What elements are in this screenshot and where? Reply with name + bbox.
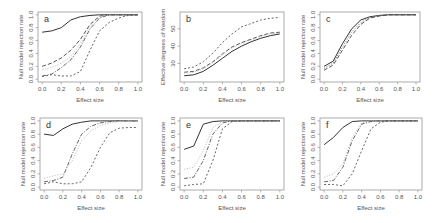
- plot-frame: [320, 12, 420, 82]
- series-long-dash: [42, 15, 138, 67]
- series-dotted: [324, 15, 416, 68]
- plot-frame: [320, 118, 422, 190]
- x-tick-label: 0.2: [59, 194, 68, 200]
- series-short-dash: [42, 15, 138, 77]
- panel-label: d: [46, 120, 51, 130]
- series-light: [184, 33, 280, 73]
- x-tick-label: 1.0: [134, 86, 143, 92]
- x-tick-label: 0.6: [375, 86, 384, 92]
- x-axis-title: Effect size: [76, 97, 104, 103]
- y-tick-label: 0.4: [170, 156, 176, 165]
- series-long-dash: [184, 32, 280, 72]
- y-axis-title: Null model rejection rate: [300, 121, 306, 186]
- series-dashed: [324, 15, 416, 70]
- y-tick-label: 0.8: [310, 23, 316, 32]
- x-tick-label: 0.4: [218, 86, 227, 92]
- y-tick-label: 0.4: [310, 156, 316, 165]
- series-short-dash: [44, 128, 138, 184]
- x-tick-label: 0.2: [339, 194, 348, 200]
- y-tick-label: 0.0: [310, 74, 316, 83]
- y-tick-label: 0.6: [170, 143, 176, 152]
- panel-d: 0.00.20.40.60.81.00.00.20.40.60.81.0Effe…: [20, 116, 143, 211]
- x-axis-title: Effect size: [218, 205, 246, 211]
- series-dash-dot: [44, 121, 138, 182]
- x-tick-label: 0.6: [376, 194, 385, 200]
- series-short-dash: [324, 121, 418, 186]
- x-tick-label: 0.2: [199, 86, 208, 92]
- x-tick-label: 0.8: [395, 194, 404, 200]
- x-tick-label: 0.4: [218, 194, 227, 200]
- x-tick-label: 0.4: [76, 86, 85, 92]
- y-tick-label: 0.2: [310, 61, 316, 70]
- x-axis-title: Effect size: [77, 205, 105, 211]
- series-light: [42, 15, 138, 70]
- y-tick-label: 0.8: [170, 129, 176, 138]
- y-tick-label: 50: [170, 25, 176, 32]
- y-tick-label: 0.4: [30, 156, 36, 165]
- panel-c: 0.00.20.40.60.81.00.00.20.40.60.81.0Effe…: [300, 10, 421, 103]
- series-dash-dot: [42, 15, 138, 76]
- plot-frame: [180, 118, 284, 190]
- y-tick-label: 0.6: [28, 36, 34, 45]
- x-tick-label: 1.0: [276, 194, 285, 200]
- y-tick-label: 0.2: [310, 169, 316, 178]
- plot-frame: [40, 118, 142, 190]
- series-solid: [324, 15, 416, 67]
- x-tick-label: 0.0: [38, 86, 47, 92]
- x-tick-label: 1.0: [276, 86, 285, 92]
- y-tick-label: 0.4: [28, 49, 34, 58]
- y-tick-label: 0.6: [310, 143, 316, 152]
- panel-a: 0.00.20.40.60.81.00.00.20.40.60.81.0Effe…: [18, 10, 143, 103]
- x-tick-label: 0.0: [320, 86, 329, 92]
- x-tick-label: 0.8: [257, 86, 266, 92]
- y-tick-label: 0.0: [170, 182, 176, 191]
- x-tick-label: 0.2: [199, 194, 208, 200]
- x-tick-label: 0.0: [180, 86, 189, 92]
- x-tick-label: 0.2: [338, 86, 347, 92]
- y-tick-label: 40: [170, 42, 176, 49]
- panel-label: f: [326, 120, 329, 130]
- x-tick-label: 0.0: [320, 194, 329, 200]
- panel-e: 0.00.20.40.60.81.00.00.20.40.60.81.0Effe…: [160, 116, 285, 211]
- x-tick-label: 0.6: [237, 86, 246, 92]
- plot-frame: [38, 12, 142, 82]
- y-axis-title: Null model rejection rate: [160, 121, 166, 186]
- y-tick-label: 1.0: [28, 10, 34, 19]
- y-tick-label: 0.6: [310, 36, 316, 45]
- figure-grid: 0.00.20.40.60.81.00.00.20.40.60.81.0Effe…: [0, 0, 437, 223]
- series-light: [184, 121, 280, 169]
- series-solid: [324, 121, 418, 145]
- y-tick-label: 0.4: [310, 49, 316, 58]
- y-tick-label: 1.0: [310, 116, 316, 125]
- y-tick-label: 1.0: [310, 10, 316, 19]
- series-light: [324, 121, 418, 177]
- x-axis-title: Effect size: [357, 205, 385, 211]
- y-axis-title: Null model rejection rate: [300, 14, 306, 79]
- y-tick-label: 0.0: [30, 182, 36, 191]
- panel-f: 0.00.20.40.60.81.00.00.20.40.60.81.0Effe…: [300, 116, 423, 211]
- series-light: [44, 121, 138, 179]
- panel-label: e: [186, 120, 191, 130]
- x-tick-label: 0.0: [180, 194, 189, 200]
- x-tick-label: 0.8: [115, 194, 124, 200]
- y-axis-title: Null model rejection rate: [20, 121, 26, 186]
- y-tick-label: 0.0: [310, 182, 316, 191]
- x-axis-title: Effect size: [218, 97, 246, 103]
- y-tick-label: 0.0: [28, 74, 34, 83]
- x-tick-label: 0.8: [393, 86, 402, 92]
- series-solid: [184, 121, 280, 149]
- x-tick-label: 0.4: [357, 86, 366, 92]
- y-tick-label: 0.2: [30, 169, 36, 178]
- y-tick-label: 30: [170, 60, 176, 67]
- y-tick-label: 1.0: [170, 116, 176, 125]
- y-axis-title: Null model rejection rate: [18, 14, 24, 79]
- x-tick-label: 0.6: [95, 86, 104, 92]
- y-tick-label: 0.8: [28, 23, 34, 32]
- panel-label: a: [44, 14, 49, 24]
- x-axis-title: Effect size: [356, 97, 384, 103]
- y-tick-label: 0.6: [30, 143, 36, 152]
- x-tick-label: 0.8: [115, 86, 124, 92]
- series-dash-dot: [324, 121, 418, 182]
- panel-label: b: [186, 14, 191, 24]
- x-tick-label: 0.0: [40, 194, 49, 200]
